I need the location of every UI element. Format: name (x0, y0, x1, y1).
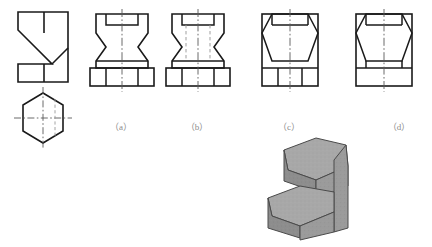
option-d[interactable] (352, 8, 416, 94)
z-outline (18, 12, 68, 82)
solid-back-vertical-wall (334, 145, 348, 232)
option-b[interactable] (166, 8, 230, 94)
option-b-label: （b） (186, 122, 209, 132)
hexagon-top-view (14, 87, 72, 150)
option-d-label: （d） (388, 122, 411, 132)
z-shaped-front-view (18, 12, 68, 82)
isometric-solid (268, 138, 348, 240)
option-a[interactable] (90, 8, 154, 94)
z-diagonal-inner (52, 48, 68, 64)
engineering-drawing-canvas: （a） （b） （c） （d） (0, 0, 432, 247)
option-c-label: （c） (278, 122, 300, 132)
option-c[interactable] (258, 8, 322, 94)
option-a-label: （a） (110, 122, 132, 132)
